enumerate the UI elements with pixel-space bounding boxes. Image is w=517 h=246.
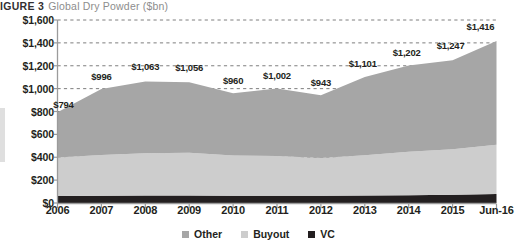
legend-item-label: Buyout: [253, 228, 289, 240]
x-axis-tick-label: Jun-16: [479, 204, 513, 216]
chart-legend: OtherBuyoutVC: [0, 226, 517, 242]
square-swatch-icon: [308, 231, 315, 238]
x-axis-tick-label: 2010: [221, 204, 245, 216]
legend-item[interactable]: VC: [308, 228, 335, 240]
x-axis-tick-label: 2014: [397, 204, 421, 216]
figure-number-label: IGURE 3: [0, 0, 44, 12]
data-point-label: $1,056: [175, 62, 203, 73]
chart-plot-area: $0$200$400$600$800$1,000$1,200$1,400$1,6…: [0, 14, 517, 214]
y-axis-tick-label: $1,200: [0, 60, 54, 72]
x-axis-tick-label: 2011: [265, 204, 288, 216]
y-axis-tick-label: $200: [0, 174, 54, 186]
data-point-label: $1,002: [263, 70, 291, 81]
x-axis-tick-label: 2008: [133, 204, 157, 216]
data-point-label: $960: [223, 75, 243, 86]
y-axis-tick-label: $1,000: [0, 83, 54, 95]
data-point-label: $943: [311, 77, 331, 88]
x-axis-tick-label: 2006: [46, 204, 70, 216]
legend-item[interactable]: Buyout: [241, 228, 289, 240]
data-point-label: $1,101: [349, 58, 377, 69]
x-axis-labels: 2006200720082009201020112012201320142015…: [0, 204, 517, 220]
square-swatch-icon: [241, 231, 248, 238]
data-point-label: $1,063: [131, 61, 159, 72]
y-axis-tick-label: $800: [0, 106, 54, 118]
x-axis-tick-label: 2013: [353, 204, 377, 216]
y-axis-tick-label: $1,600: [0, 14, 54, 26]
legend-item-label: VC: [320, 228, 335, 240]
square-swatch-icon: [182, 231, 189, 238]
y-axis-tick-label: $400: [0, 151, 54, 163]
data-point-label: $794: [53, 99, 73, 110]
figure-container: IGURE 3Global Dry Powder ($bn) $0$200$40…: [0, 0, 517, 246]
data-point-label: $1,416: [467, 21, 495, 32]
x-axis-tick-label: 2012: [309, 204, 333, 216]
page-title: Global Dry Powder ($bn): [48, 0, 168, 12]
data-point-label: $1,247: [437, 40, 465, 51]
x-axis-tick-label: 2009: [177, 204, 201, 216]
x-axis-tick-label: 2007: [90, 204, 114, 216]
legend-item[interactable]: Other: [182, 228, 222, 240]
y-axis-tick-label: $600: [0, 128, 54, 140]
figure-title-bar: IGURE 3Global Dry Powder ($bn): [0, 0, 517, 15]
legend-item-label: Other: [194, 228, 222, 240]
data-point-label: $1,202: [393, 47, 421, 58]
x-axis-tick-label: 2015: [441, 204, 465, 216]
y-axis-tick-label: $1,400: [0, 37, 54, 49]
data-point-label: $996: [91, 71, 111, 82]
